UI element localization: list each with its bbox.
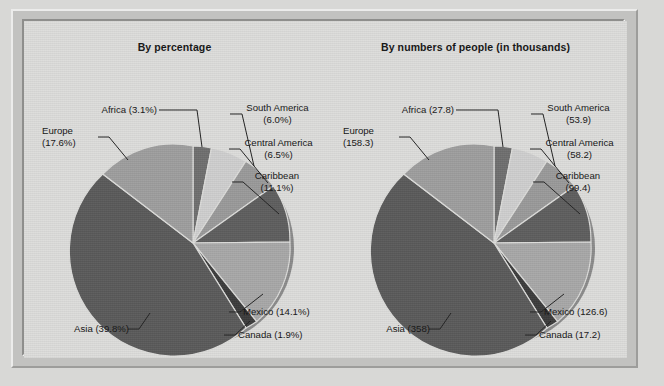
figure-outer-frame: By percentage: [11, 9, 638, 368]
label-canada-right: Canada (17.2): [539, 329, 600, 341]
pie-chart-by-numbers: Africa (27.8) South America (53.9) Centr…: [325, 21, 626, 358]
pie-panel-by-percentage: By percentage: [24, 21, 325, 358]
chart-canvas: By percentage: [24, 21, 627, 358]
label-caribbean-right: Caribbean (99.4): [537, 170, 619, 193]
pie-panel-by-numbers: By numbers of people (in thousands): [325, 21, 626, 358]
label-europe-right: Europe (158.3): [343, 125, 374, 148]
label-canada-left: Canada (1.9%): [238, 329, 303, 341]
label-central-america-right: Central America (58.2): [530, 137, 629, 160]
label-central-america-left: Central America (6.5%): [229, 137, 328, 160]
label-mexico-right: Mexico (126.6): [544, 306, 607, 318]
label-south-america-left: South America (6.0%): [230, 102, 325, 125]
pie-chart-by-percentage: Africa (3.1%) South America (6.0%) Centr…: [24, 21, 325, 358]
label-south-america-right: South America (53.9): [531, 102, 626, 125]
label-mexico-left: Mexico (14.1%): [243, 306, 310, 318]
label-caribbean-left: Caribbean (11.1%): [236, 170, 318, 193]
figure-inner-frame: By percentage: [22, 19, 625, 356]
label-africa-right: Africa (27.8): [335, 104, 454, 116]
label-africa-left: Africa (3.1%): [34, 104, 157, 116]
label-asia-right: Asia (358): [335, 323, 430, 335]
label-asia-left: Asia (39.8%): [34, 323, 129, 335]
label-europe-left: Europe (17.6%): [42, 125, 76, 148]
